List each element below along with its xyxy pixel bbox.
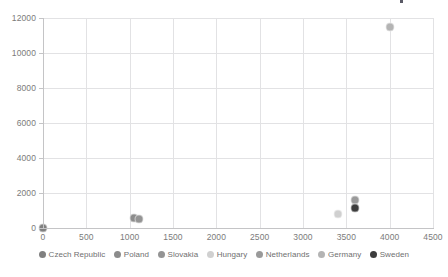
top-edge-artifact <box>400 0 403 3</box>
x-tick-label-4000: 4000 <box>380 232 399 242</box>
chart-legend: Czech RepublicPolandSlovakiaHungaryNethe… <box>0 250 448 259</box>
x-tick-label-500: 500 <box>79 232 93 242</box>
gridline-horizontal-2000 <box>43 193 433 194</box>
y-tick-label-8000: 8000 <box>17 83 36 93</box>
data-point-hungary[interactable] <box>333 210 342 219</box>
legend-label: Sweden <box>380 250 409 259</box>
x-tick-label-2000: 2000 <box>207 232 226 242</box>
x-tick-label-3000: 3000 <box>293 232 312 242</box>
legend-swatch-icon <box>158 251 165 258</box>
gridline-horizontal-4000 <box>43 158 433 159</box>
legend-item-czech-republic[interactable]: Czech Republic <box>39 250 105 259</box>
legend-label: Poland <box>124 250 149 259</box>
legend-label: Hungary <box>217 250 248 259</box>
y-tick-mark-10000 <box>39 53 43 54</box>
data-point-germany[interactable] <box>385 22 394 31</box>
x-tick-label-1000: 1000 <box>120 232 139 242</box>
y-tick-mark-8000 <box>39 88 43 89</box>
data-point-sweden[interactable] <box>351 203 360 212</box>
legend-swatch-icon <box>39 251 46 258</box>
gridline-horizontal-8000 <box>43 88 433 89</box>
gridline-horizontal-12000 <box>43 18 433 19</box>
legend-swatch-icon <box>370 251 377 258</box>
legend-item-hungary[interactable]: Hungary <box>207 250 247 259</box>
y-tick-label-10000: 10000 <box>12 48 36 58</box>
legend-item-germany[interactable]: Germany <box>318 250 361 259</box>
y-tick-label-0: 0 <box>31 223 36 233</box>
y-tick-mark-4000 <box>39 158 43 159</box>
legend-swatch-icon <box>256 251 263 258</box>
y-tick-mark-0 <box>39 228 43 229</box>
plot-area <box>43 18 433 228</box>
y-tick-label-6000: 6000 <box>17 118 36 128</box>
gridline-horizontal-6000 <box>43 123 433 124</box>
x-tick-label-0: 0 <box>41 232 46 242</box>
legend-swatch-icon <box>318 251 325 258</box>
x-tick-label-3500: 3500 <box>337 232 356 242</box>
legend-label: Germany <box>328 250 361 259</box>
y-tick-mark-6000 <box>39 123 43 124</box>
legend-item-sweden[interactable]: Sweden <box>370 250 409 259</box>
x-tick-label-2500: 2500 <box>250 232 269 242</box>
x-axis-line <box>43 228 434 229</box>
x-tick-label-4500: 4500 <box>423 232 442 242</box>
gridline-horizontal-10000 <box>43 53 433 54</box>
legend-item-poland[interactable]: Poland <box>114 250 149 259</box>
data-point-slovakia[interactable] <box>135 214 144 223</box>
legend-label: Czech Republic <box>49 250 106 259</box>
y-tick-mark-12000 <box>39 18 43 19</box>
legend-item-slovakia[interactable]: Slovakia <box>158 250 198 259</box>
scatter-chart: 020004000600080001000012000 050010001500… <box>0 0 448 277</box>
legend-swatch-icon <box>207 251 214 258</box>
y-tick-label-12000: 12000 <box>12 13 36 23</box>
legend-swatch-icon <box>114 251 121 258</box>
legend-label: Slovakia <box>168 250 199 259</box>
x-tick-label-1500: 1500 <box>163 232 182 242</box>
legend-item-netherlands[interactable]: Netherlands <box>256 250 309 259</box>
y-tick-mark-2000 <box>39 193 43 194</box>
y-tick-label-2000: 2000 <box>17 188 36 198</box>
y-tick-label-4000: 4000 <box>17 153 36 163</box>
gridline-vertical-4500 <box>433 18 434 228</box>
legend-label: Netherlands <box>266 250 310 259</box>
y-axis-line <box>43 18 44 229</box>
